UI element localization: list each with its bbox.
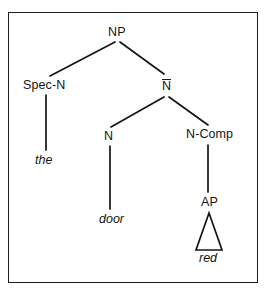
figure-border bbox=[8, 12, 258, 283]
syntax-tree-figure: NP Spec-N N N N-Comp AP the door red bbox=[0, 0, 271, 302]
node-n: N bbox=[104, 130, 113, 143]
leaf-red: red bbox=[199, 252, 217, 265]
node-np: NP bbox=[108, 26, 126, 39]
node-n-bar: N bbox=[162, 79, 171, 93]
node-n-comp: N-Comp bbox=[186, 128, 233, 141]
leaf-the: the bbox=[35, 154, 52, 167]
node-n-bar-text: N bbox=[162, 79, 171, 93]
leaf-door: door bbox=[99, 213, 124, 226]
node-ap: AP bbox=[201, 196, 218, 209]
node-spec-n: Spec-N bbox=[23, 79, 65, 92]
